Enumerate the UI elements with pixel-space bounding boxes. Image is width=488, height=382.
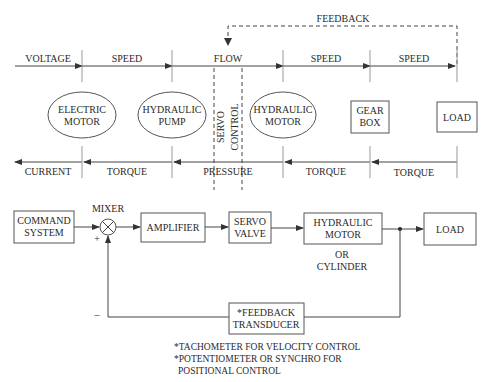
svg-text:SYSTEM: SYSTEM	[24, 227, 64, 238]
svg-text:HYDRAULIC: HYDRAULIC	[314, 217, 373, 228]
torque-label-1: TORQUE	[107, 166, 147, 177]
feedback-arrow-icon	[224, 38, 232, 46]
svg-text:MOTOR: MOTOR	[325, 229, 361, 240]
svg-text:MOTOR: MOTOR	[265, 116, 301, 127]
load-node-top: LOAD	[437, 102, 477, 132]
svg-text:CONTROL: CONTROL	[229, 103, 240, 150]
current-label: CURRENT	[25, 166, 72, 177]
mixer-label: MIXER	[92, 203, 125, 214]
svg-text:ELECTRIC: ELECTRIC	[58, 104, 106, 115]
footnote-2: *POTENTIOMETER OR SYNCHRO FOR	[174, 354, 342, 364]
hydraulic-pump-node: HYDRAULIC PUMP	[138, 92, 206, 138]
hydraulic-motor-block: HYDRAULIC MOTOR	[304, 213, 382, 244]
speed-label-2: SPEED	[311, 53, 342, 64]
pressure-label: PRESSURE	[203, 166, 252, 177]
amplifier-block: AMPLIFIER	[141, 213, 205, 242]
svg-text:VALVE: VALVE	[234, 228, 266, 239]
svg-text:LOAD: LOAD	[436, 224, 464, 235]
load-block-bottom: LOAD	[424, 213, 476, 245]
svg-text:HYDRAULIC: HYDRAULIC	[254, 104, 313, 115]
speed-label-3: SPEED	[399, 53, 430, 64]
footnote-3: POSITIONAL CONTROL	[178, 366, 281, 376]
svg-text:AMPLIFIER: AMPLIFIER	[147, 222, 200, 233]
svg-text:PUMP: PUMP	[158, 116, 186, 127]
flow-label: FLOW	[214, 53, 243, 64]
svg-text:GEAR: GEAR	[356, 105, 384, 116]
voltage-label: VOLTAGE	[25, 53, 71, 64]
svg-text:LOAD: LOAD	[443, 112, 471, 123]
minus-sign: –	[94, 309, 101, 320]
footnote-1: *TACHOMETER FOR VELOCITY CONTROL	[174, 342, 361, 352]
speed-label-1: SPEED	[112, 53, 143, 64]
svg-text:TRANSDUCER: TRANSDUCER	[233, 319, 300, 330]
mixer-junction-icon	[100, 219, 116, 235]
or-label: OR	[335, 249, 349, 260]
torque-label-2: TORQUE	[306, 166, 346, 177]
hydraulic-system-diagram: FEEDBACK VOLTAGE SPEED FLOW SPEED SPEED …	[0, 0, 488, 382]
svg-text:SERVO: SERVO	[215, 111, 226, 143]
hydraulic-motor-node: HYDRAULIC MOTOR	[250, 92, 316, 138]
torque-label-3: TORQUE	[394, 167, 434, 178]
feedback-label: FEEDBACK	[317, 13, 371, 24]
svg-text:BOX: BOX	[359, 117, 381, 128]
feedback-transducer-block: *FEEDBACK TRANSDUCER	[229, 303, 304, 334]
svg-text:SERVO: SERVO	[234, 216, 266, 227]
svg-text:HYDRAULIC: HYDRAULIC	[143, 104, 202, 115]
svg-text:MOTOR: MOTOR	[64, 116, 100, 127]
servo-valve-block: SERVO VALVE	[229, 212, 271, 243]
gear-box-node: GEAR BOX	[351, 101, 389, 133]
electric-motor-node: ELECTRIC MOTOR	[48, 92, 116, 138]
svg-text:*FEEDBACK: *FEEDBACK	[237, 307, 296, 318]
plus-sign: +	[94, 233, 100, 244]
svg-text:COMMAND: COMMAND	[17, 215, 70, 226]
cylinder-label: CYLINDER	[317, 261, 368, 272]
command-system-block: COMMAND SYSTEM	[14, 211, 74, 243]
